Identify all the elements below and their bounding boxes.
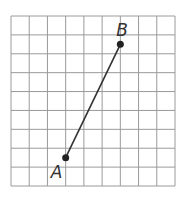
point-b <box>117 41 124 48</box>
point-a <box>62 154 69 161</box>
label-b: B <box>116 20 128 40</box>
grid-diagram: A B <box>0 0 184 198</box>
segment-ab <box>66 44 121 157</box>
label-a: A <box>50 162 63 182</box>
